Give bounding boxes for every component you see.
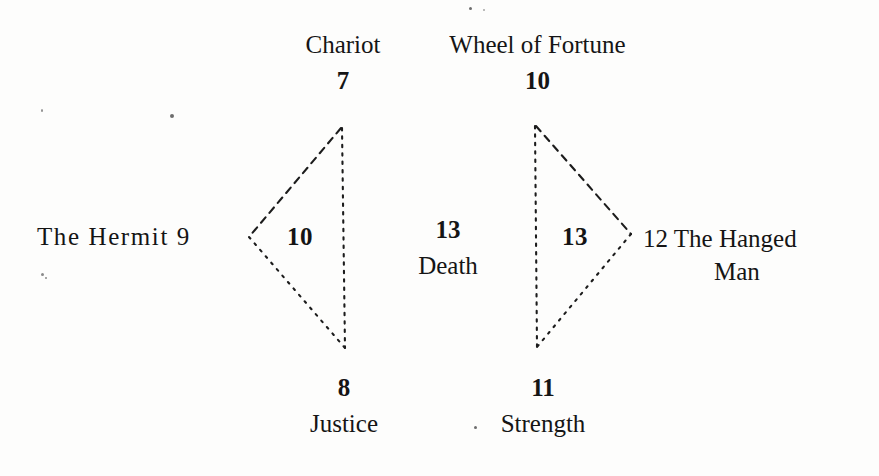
node-chariot-name: Chariot bbox=[283, 27, 403, 63]
scan-speck bbox=[483, 9, 485, 11]
right-triangle-interior-label: 13 bbox=[562, 222, 588, 252]
node-death-name: Death bbox=[396, 248, 500, 284]
node-justice-name: Justice bbox=[285, 406, 403, 442]
left-lower-edge bbox=[249, 237, 345, 348]
scan-speck bbox=[474, 426, 477, 429]
scan-speck bbox=[45, 277, 47, 279]
node-the-hanged-man-line2: Man bbox=[643, 255, 797, 288]
tarot-diagram-page: Chariot 7 Wheel of Fortune 10 The Hermit… bbox=[0, 0, 879, 476]
node-justice: 8 Justice bbox=[285, 370, 403, 443]
scan-speck bbox=[41, 109, 43, 112]
node-the-hanged-man: 12 The Hanged Man bbox=[643, 222, 797, 288]
node-wheel-of-fortune: Wheel of Fortune 10 bbox=[430, 27, 645, 100]
node-wheel-of-fortune-name: Wheel of Fortune bbox=[430, 27, 645, 63]
scan-speck bbox=[170, 114, 174, 118]
node-death: 13 Death bbox=[396, 212, 500, 285]
node-strength-name: Strength bbox=[478, 406, 608, 442]
left-triangle-interior-label: 10 bbox=[287, 222, 313, 252]
node-chariot-number: 7 bbox=[283, 63, 403, 99]
scan-speck bbox=[41, 273, 44, 276]
node-wheel-of-fortune-number: 10 bbox=[430, 63, 645, 99]
node-justice-number: 8 bbox=[285, 370, 403, 406]
left-vertical-axis bbox=[342, 128, 345, 348]
node-the-hanged-man-line1: 12 The Hanged bbox=[643, 225, 797, 252]
right-vertical-axis bbox=[535, 126, 537, 347]
node-strength-number: 11 bbox=[478, 370, 608, 406]
left-upper-edge bbox=[249, 128, 341, 237]
right-upper-edge bbox=[536, 126, 631, 234]
node-the-hermit: The Hermit 9 bbox=[37, 222, 191, 252]
node-strength: 11 Strength bbox=[478, 370, 608, 443]
node-chariot: Chariot 7 bbox=[283, 27, 403, 100]
scan-speck bbox=[469, 7, 472, 10]
node-death-number: 13 bbox=[396, 212, 500, 248]
